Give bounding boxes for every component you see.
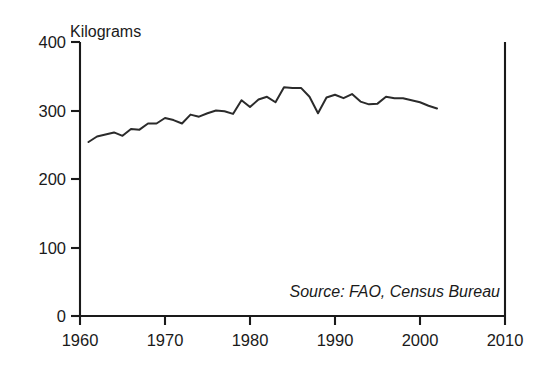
y-axis-title: Kilograms: [70, 23, 141, 40]
y-tick-label-300: 300: [38, 102, 66, 120]
y-tick-label-400: 400: [38, 33, 66, 51]
y-tick-label-100: 100: [38, 239, 66, 257]
y-tick-label-0: 0: [57, 307, 66, 325]
y-tick-label-200: 200: [38, 170, 66, 188]
x-tick-label-2010: 2010: [487, 331, 524, 349]
x-tick-label-1960: 1960: [62, 331, 99, 349]
chart-figure: Kilograms 400 300 200 100 0 1960 1970 19…: [0, 0, 549, 381]
x-tick-label-2000: 2000: [402, 331, 439, 349]
x-tick-label-1980: 1980: [232, 331, 269, 349]
x-tick-label-1990: 1990: [317, 331, 354, 349]
data-line-series-0: [89, 87, 438, 142]
source-note: Source: FAO, Census Bureau: [290, 283, 501, 300]
x-tick-label-1970: 1970: [147, 331, 184, 349]
